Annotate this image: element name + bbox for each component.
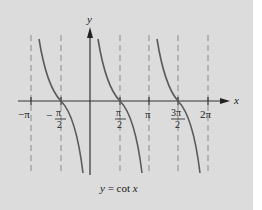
tick-label-pi-half-num: π xyxy=(116,107,121,118)
tick-label-3pi-half-den: 2 xyxy=(175,119,180,130)
tick-label-neg-pi: −π xyxy=(18,108,30,120)
caption: y = cot x xyxy=(99,182,138,194)
tick-label-neg-sign: − xyxy=(46,109,52,121)
tick-label-neg-pi-half-den: 2 xyxy=(57,119,62,130)
caption-eq: = cot xyxy=(105,182,133,194)
y-axis-label: y xyxy=(86,13,92,25)
cot-graph: y x −π − π 2 π 2 π 3π 2 2π y = cot x xyxy=(0,0,262,210)
tick-label-2pi: 2π xyxy=(200,108,212,120)
y-axis-arrow-icon xyxy=(87,27,93,38)
tick-label-neg-pi-half-num: π xyxy=(56,107,61,118)
caption-rhs: x xyxy=(132,182,138,194)
x-axis-arrow-icon xyxy=(220,98,230,104)
tick-label-3pi-half-num: 3π xyxy=(171,107,181,118)
x-axis-label: x xyxy=(233,94,239,106)
tick-label-pi: π xyxy=(145,108,151,120)
tick-label-pi-half-den: 2 xyxy=(117,119,122,130)
